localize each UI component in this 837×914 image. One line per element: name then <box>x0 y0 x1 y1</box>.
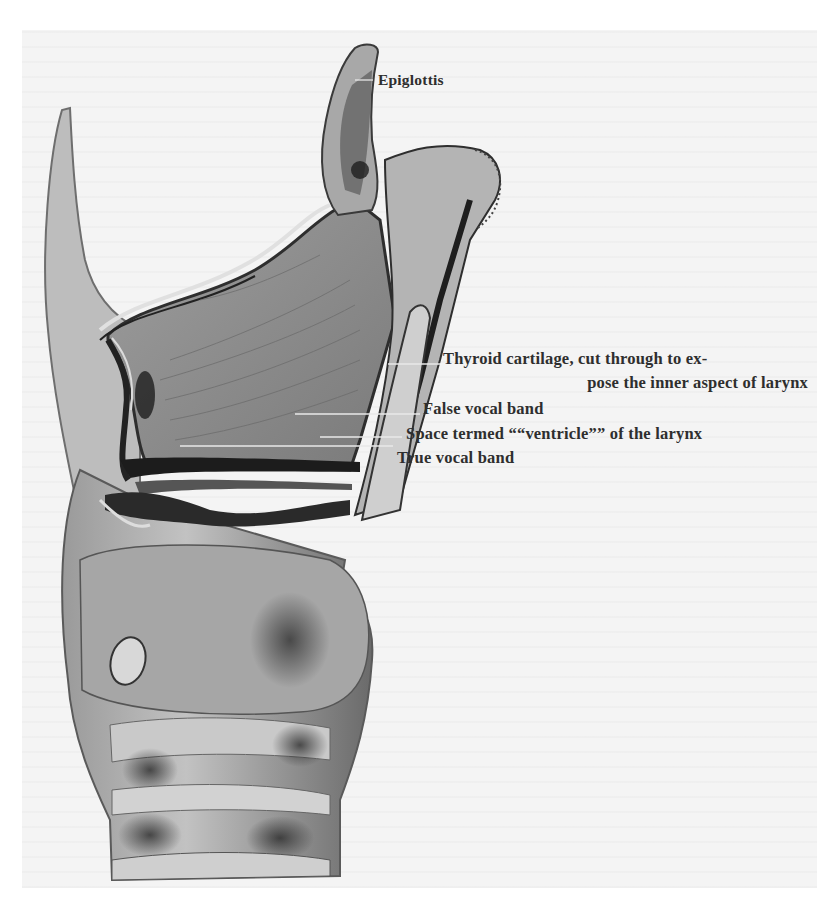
label-thyroid-line2: pose the inner aspect of larynx <box>587 375 808 392</box>
aryepiglottic-region <box>100 200 395 480</box>
vocal-bands <box>100 457 360 526</box>
label-true-vocal-band: True vocal band <box>397 450 514 467</box>
label-false-vocal-band: False vocal band <box>423 401 544 418</box>
label-epiglottis: Epiglottis <box>378 72 444 88</box>
label-ventricle: Space termed ““ventricle”” of the larynx <box>406 426 702 443</box>
larynx-body <box>62 470 372 880</box>
epiglottis <box>322 45 378 215</box>
label-thyroid-line1: Thyroid cartilage, cut through to ex- <box>443 351 707 368</box>
